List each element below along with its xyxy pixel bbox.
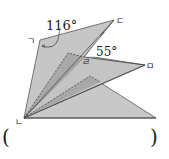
point-label-rieul: ㄹ [82,57,90,67]
answer-paren-open: ( [2,125,10,149]
angle-label-55: 55° [96,45,117,59]
folded-paper-diagram: 116° 55° ㄱ ㄷ ㄹ ㅁ ㄴ [0,0,169,159]
angle-label-116: 116° [46,18,77,33]
point-label-mieum: ㅁ [146,61,154,71]
point-label-giyeok: ㄱ [27,36,35,46]
point-label-digeut: ㄷ [116,16,124,26]
answer-paren-close: ) [150,125,158,149]
point-label-nieun: ㄴ [15,117,23,127]
